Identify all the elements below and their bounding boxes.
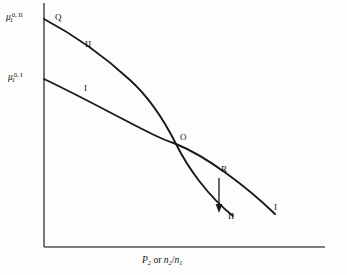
curve-label-II-upper: II bbox=[85, 40, 92, 49]
drop-arrow-head bbox=[216, 204, 223, 213]
y-axis-label-upper: μ10, II bbox=[6, 12, 23, 24]
curve-label-I-lower: I bbox=[274, 203, 277, 212]
x-title-conjunction: or bbox=[151, 255, 164, 265]
x-title-n-denominator-sub: 1 bbox=[179, 259, 182, 266]
point-label-q: Q bbox=[55, 13, 62, 22]
curve-I bbox=[44, 79, 275, 214]
y-axis-label-lower: μ10, I bbox=[8, 72, 23, 84]
mu-sup-upper: 0, II bbox=[12, 11, 23, 18]
point-label-r: R bbox=[221, 165, 227, 174]
curve-label-I-upper: I bbox=[84, 84, 87, 93]
curve-II bbox=[44, 19, 233, 216]
curve-label-II-lower: II bbox=[228, 212, 235, 221]
plot-area bbox=[0, 0, 347, 275]
point-label-o: O bbox=[180, 133, 187, 142]
x-axis-title: P2 or n2/n1 bbox=[142, 256, 182, 266]
mu-sup-lower: 0, I bbox=[14, 71, 23, 78]
figure-container: μ10, II μ10, I Q O R II I II I P2 or n2/… bbox=[0, 0, 347, 275]
